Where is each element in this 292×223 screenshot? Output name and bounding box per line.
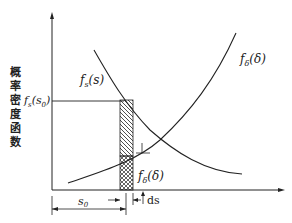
axes: [50, 12, 285, 192]
stress-curve-label: fs(s): [79, 73, 104, 89]
arrow-left-small-icon: [133, 198, 138, 202]
y-axis-arrow-icon: [50, 12, 54, 19]
arrow-left-icon: [52, 207, 58, 211]
ds-dimension: ds: [133, 191, 160, 207]
s0-dimension: s0: [52, 193, 126, 215]
stress-curve: [94, 50, 242, 174]
x-axis-arrow-icon: [278, 188, 285, 192]
svg-text:ds: ds: [147, 194, 160, 207]
stress-strength-interference-diagram: fs(s) fδ(δ) fs(s0) fδ(δ) s0 ds: [0, 0, 292, 223]
strength-curve: [68, 33, 236, 183]
svg-text:s0: s0: [78, 195, 89, 209]
arrow-right-icon: [120, 207, 126, 211]
strength-lower-label: fδ(δ): [137, 169, 164, 185]
arrow-up-icon: [141, 191, 145, 196]
fs-s0-label: fs(s0): [23, 94, 50, 109]
arrow-right-small-icon: [115, 198, 120, 202]
strength-curve-label: fδ(δ): [239, 52, 266, 68]
